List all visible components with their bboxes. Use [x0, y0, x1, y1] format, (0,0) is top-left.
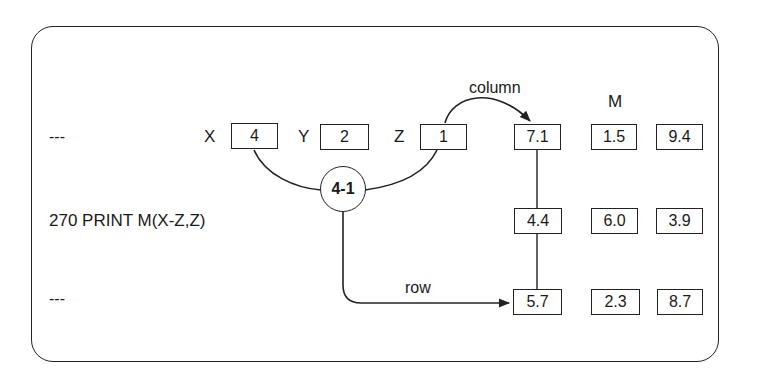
row-label: row	[405, 279, 431, 297]
var-box-z: 1	[420, 124, 467, 150]
matrix-cell-r3c3: 8.7	[657, 289, 703, 315]
connector-lines	[0, 0, 767, 378]
var-box-x: 4	[231, 123, 278, 149]
matrix-cell-r2c2: 6.0	[591, 208, 638, 234]
matrix-cell-r3c2: 2.3	[591, 289, 640, 315]
matrix-cell-r1c3: 9.4	[656, 124, 703, 150]
ellipsis-top: ---	[49, 128, 65, 146]
ellipsis-bottom: ---	[49, 290, 65, 308]
subtraction-node: 4-1	[320, 166, 366, 212]
var-label-z: Z	[394, 128, 404, 146]
print-statement: 270 PRINT M(X-Z,Z)	[49, 212, 205, 230]
matrix-cell-r2c1: 4.4	[514, 208, 562, 234]
matrix-cell-r1c1: 7.1	[514, 124, 561, 150]
var-box-y: 2	[320, 124, 369, 150]
matrix-cell-r2c3: 3.9	[656, 208, 703, 234]
matrix-cell-r1c2: 1.5	[591, 124, 637, 150]
matrix-cell-r3c1: 5.7	[513, 289, 562, 315]
column-label: column	[469, 79, 521, 97]
var-label-x: X	[204, 128, 215, 146]
matrix-label: M	[608, 93, 622, 111]
var-label-y: Y	[298, 128, 309, 146]
